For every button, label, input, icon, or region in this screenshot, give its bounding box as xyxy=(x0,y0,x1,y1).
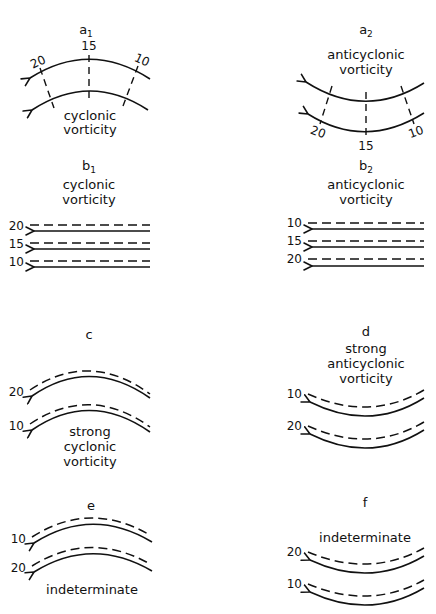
panel-a1: a1 15 20 10 cyclonic vorticity xyxy=(28,22,152,137)
isoline-label: 15 xyxy=(9,237,24,251)
caption-line-1: indeterminate xyxy=(46,582,138,597)
panel-b2-title: b2 xyxy=(359,158,373,175)
caption-line-1: anticyclonic xyxy=(327,47,404,62)
caption-line-2: vorticity xyxy=(339,62,393,77)
panel-b1-title: b1 xyxy=(82,158,96,175)
panel-b1: b1 cyclonic vorticity 20 15 10 xyxy=(9,158,150,269)
caption-line-1: strong xyxy=(69,424,110,439)
panel-f: f indeterminate 20 10 xyxy=(287,495,424,605)
panel-e: e 10 20 indeterminate xyxy=(11,498,152,597)
isoline xyxy=(308,422,424,439)
isoline-label: 10 xyxy=(287,577,302,591)
isoline-label-10: 10 xyxy=(406,123,425,141)
caption-line-1: anticyclonic xyxy=(327,177,404,192)
isoline-label: 15 xyxy=(287,234,302,248)
isoline-label: 20 xyxy=(287,545,302,559)
panel-c-title: c xyxy=(85,327,92,342)
isoline xyxy=(308,580,424,596)
panel-a2: a2 anticyclonic vorticity 20 15 10 xyxy=(306,22,426,153)
isoline-label-15: 15 xyxy=(81,39,96,53)
vorticity-diagram: a1 15 20 10 cyclonic vorticity a2 anticy… xyxy=(0,0,436,614)
isoline-label: 20 xyxy=(9,385,24,399)
caption-line-2: vorticity xyxy=(62,192,116,207)
caption-line-2: vorticity xyxy=(339,192,393,207)
isoline-label-20: 20 xyxy=(28,52,48,71)
panel-a2-title: a2 xyxy=(359,22,373,39)
panel-e-title: e xyxy=(87,498,95,513)
isoline-label: 10 xyxy=(9,419,24,433)
caption-line-1: indeterminate xyxy=(319,530,411,545)
caption-line-2: anticyclonic xyxy=(327,356,404,371)
isoline xyxy=(308,390,424,407)
caption-line-1: strong xyxy=(345,341,386,356)
isoline-label: 20 xyxy=(287,252,302,266)
panel-d: d strong anticyclonic vorticity 10 20 xyxy=(287,324,424,448)
panel-f-title: f xyxy=(363,495,368,510)
isoline-label: 20 xyxy=(287,419,302,433)
caption-line-3: vorticity xyxy=(63,454,117,469)
isoline-label: 10 xyxy=(9,255,24,269)
caption-line-1: cyclonic xyxy=(64,108,117,123)
streamline-upper xyxy=(306,82,424,101)
isoline-label-15: 15 xyxy=(358,139,373,153)
isoline-label: 20 xyxy=(11,561,26,575)
isoline-label-20: 20 xyxy=(308,123,327,141)
isoline-label: 10 xyxy=(11,532,26,546)
isoline-label-10: 10 xyxy=(132,50,152,69)
isoline xyxy=(308,548,424,564)
isoline xyxy=(30,371,150,394)
panel-c: c 20 10 strong cyclonic vorticity xyxy=(9,327,150,469)
caption-line-3: vorticity xyxy=(339,371,393,386)
isoline-label: 10 xyxy=(287,216,302,230)
caption-line-2: vorticity xyxy=(63,122,117,137)
panel-d-title: d xyxy=(362,324,370,339)
caption-line-2: cyclonic xyxy=(64,439,117,454)
caption-line-1: cyclonic xyxy=(63,177,116,192)
panel-a1-title: a1 xyxy=(79,22,93,39)
isoline-label: 10 xyxy=(287,387,302,401)
panel-b2: b2 anticyclonic vorticity 10 15 20 xyxy=(287,158,424,266)
isoline-label: 20 xyxy=(9,219,24,233)
